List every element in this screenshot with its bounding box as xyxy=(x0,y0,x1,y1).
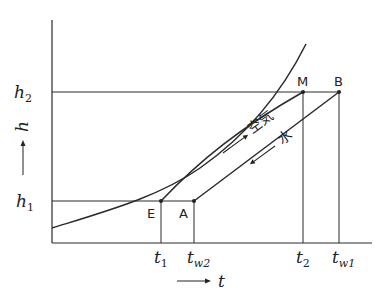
water-label: 水 xyxy=(274,126,295,147)
diagram-canvas: E A M B 空気 水 h2 h1 h t1 tw2 t2 tw1 t xyxy=(0,0,387,305)
y-axis-label: h xyxy=(12,121,32,132)
point-a-label: A xyxy=(179,206,188,221)
x-axis-label: t xyxy=(218,271,225,291)
water-direction-arrow xyxy=(248,144,276,166)
point-e-marker xyxy=(159,199,163,203)
point-m-label: M xyxy=(297,74,308,89)
point-b-marker xyxy=(337,90,341,94)
point-b-label: B xyxy=(334,74,343,89)
h2-tick-label: h2 xyxy=(14,82,32,105)
h1-tick-label: h1 xyxy=(16,191,34,214)
point-e-label: E xyxy=(147,206,155,221)
t1-tick-label: t1 xyxy=(154,247,168,270)
tw1-tick-label: tw1 xyxy=(332,247,355,270)
point-a-marker xyxy=(192,199,196,203)
y-axis-arrow xyxy=(21,140,26,175)
t2-tick-label: t2 xyxy=(296,247,310,270)
x-axis-arrow xyxy=(177,279,211,284)
tw2-tick-label: tw2 xyxy=(187,247,210,270)
point-m-marker xyxy=(301,90,305,94)
saturation-curve xyxy=(52,44,306,228)
